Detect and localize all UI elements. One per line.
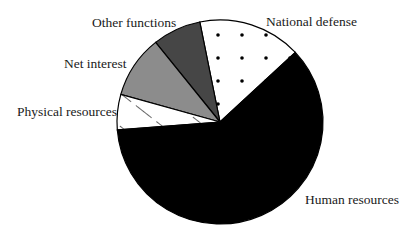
label-net-interest: Net interest [64, 57, 127, 71]
label-national-defense: National defense [266, 15, 357, 29]
label-other-functions: Other functions [92, 16, 176, 30]
label-physical-resources: Physical resources [17, 105, 117, 119]
pie-chart [0, 0, 411, 246]
label-human-resources: Human resources [305, 193, 399, 207]
pie-slices [117, 20, 323, 224]
